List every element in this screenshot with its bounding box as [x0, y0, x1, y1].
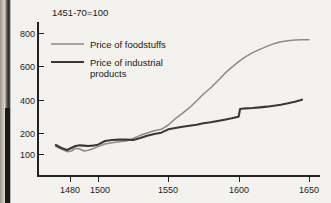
legend-label-foodstuffs: Price of foodstuffs — [90, 39, 166, 50]
chart-title: 1451-70=100 — [52, 7, 108, 18]
chart-svg: 800 600 400 200 100 1480 1500 1550 1600 — [0, 0, 331, 203]
y-tick-label-600: 600 — [20, 62, 35, 72]
y-tick-label-200: 200 — [20, 129, 35, 139]
y-axis-labels: 800 600 400 200 100 — [20, 29, 35, 160]
y-tick-label-400: 400 — [20, 96, 35, 106]
x-tick-label-1500: 1500 — [90, 185, 110, 195]
x-tick-label-1550: 1550 — [158, 185, 178, 195]
x-tick-label-1650: 1650 — [299, 185, 319, 195]
y-axis-ticks — [38, 33, 44, 154]
x-axis-ticks — [70, 176, 309, 182]
series-line-industrial-products — [56, 100, 302, 150]
y-tick-label-800: 800 — [20, 29, 35, 39]
chart-legend: Price of foodstuffs Price of industrial … — [51, 39, 166, 79]
price-index-line-chart: 800 600 400 200 100 1480 1500 1550 1600 — [0, 0, 331, 203]
legend-label-industrial-products: Price of industrial — [90, 57, 163, 68]
y-tick-label-100: 100 — [20, 150, 35, 160]
x-tick-label-1480: 1480 — [60, 185, 80, 195]
chart-screenshot: 800 600 400 200 100 1480 1500 1550 1600 — [0, 0, 331, 203]
x-axis-labels: 1480 1500 1550 1600 1650 — [60, 185, 319, 195]
chart-axes — [38, 22, 320, 176]
legend-label-industrial-products-line2: products — [90, 68, 127, 79]
x-tick-label-1600: 1600 — [229, 185, 249, 195]
